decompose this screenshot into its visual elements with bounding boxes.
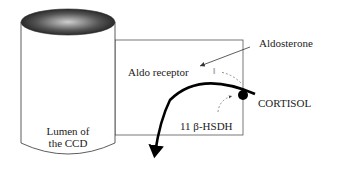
enzyme-dashed-arrow — [218, 96, 232, 112]
blocked-dashed-arrow — [220, 72, 241, 83]
cylinder-opening — [21, 9, 115, 35]
lumen-label-line1: Lumen of — [44, 126, 92, 137]
lumen-label-line2: the CCD — [44, 138, 92, 149]
cortisol-dot — [238, 90, 248, 100]
aldosterone-label: Aldosterone — [259, 38, 313, 49]
aldosterone-arrow — [200, 47, 250, 66]
blocked-symbol: ‖ — [213, 68, 215, 76]
enzyme-label: 11 β-HSDH — [180, 121, 233, 132]
aldo-receptor-label: Aldo receptor — [128, 67, 189, 78]
cortisol-label: CORTISOL — [258, 98, 311, 109]
